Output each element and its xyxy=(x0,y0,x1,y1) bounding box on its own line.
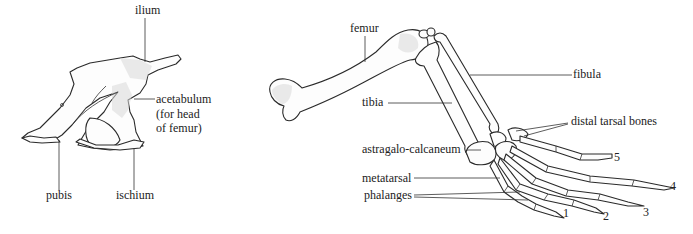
digit-number-1: 1 xyxy=(563,207,569,220)
label-acetabulum-note-2: of femur) xyxy=(156,122,202,135)
label-ischium: ischium xyxy=(116,189,154,202)
label-acetabulum: acetabulum xyxy=(156,93,211,106)
label-ilium: ilium xyxy=(135,4,160,17)
label-phalanges: phalanges xyxy=(364,189,412,202)
digit-number-4: 4 xyxy=(670,180,676,193)
label-metatarsal: metatarsal xyxy=(362,172,411,185)
digit-number-3: 3 xyxy=(643,206,649,219)
label-acetabulum-note-1: (for head xyxy=(156,108,200,121)
label-femur: femur xyxy=(350,22,379,35)
digit-number-2: 2 xyxy=(603,210,609,223)
label-fibula: fibula xyxy=(573,68,601,81)
label-distal-tarsal-bones: distal tarsal bones xyxy=(571,115,657,128)
label-astragalo-calcaneum: astragalo-calcaneum xyxy=(362,143,461,156)
digit-number-5: 5 xyxy=(614,151,620,164)
label-tibia: tibia xyxy=(362,96,383,109)
label-pubis: pubis xyxy=(46,189,72,202)
